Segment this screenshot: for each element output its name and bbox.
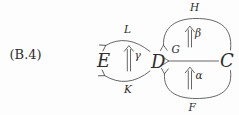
arrow-K-label: K bbox=[123, 83, 133, 95]
arrow-H-label: H bbox=[189, 1, 200, 13]
arrow-F-label: F bbox=[188, 101, 197, 113]
figure-B4: (B.4) E D C L K γ H F G β bbox=[0, 0, 239, 115]
equation-number: (B.4) bbox=[10, 47, 42, 62]
object-D: D bbox=[150, 51, 166, 72]
arrow-L-curve bbox=[106, 40, 151, 51]
object-E: E bbox=[96, 50, 110, 71]
arrow-G-label: G bbox=[172, 43, 180, 55]
double-arrow-beta-icon bbox=[185, 26, 194, 47]
double-arrow-gamma-icon bbox=[124, 46, 133, 71]
transformation-beta-label: β bbox=[194, 27, 201, 39]
arrow-K-curve bbox=[105, 71, 151, 82]
object-C: C bbox=[220, 50, 234, 71]
transformation-alpha-label: α bbox=[196, 69, 203, 81]
arrow-L-label: L bbox=[123, 23, 131, 35]
transformation-gamma-label: γ bbox=[135, 49, 142, 61]
double-arrow-alpha-icon bbox=[185, 67, 194, 89]
commutative-diagram: (B.4) E D C L K γ H F G β bbox=[0, 0, 239, 115]
